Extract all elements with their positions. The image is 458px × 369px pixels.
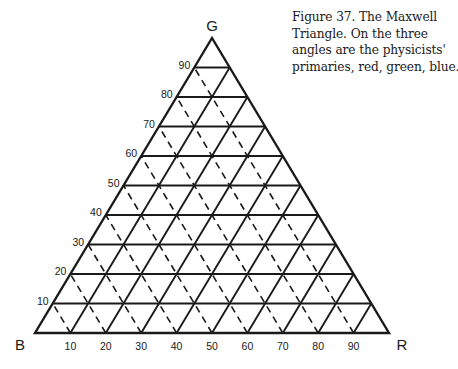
caption-line: primaries, red, green, blue. bbox=[292, 59, 458, 76]
left-axis-label: 30 bbox=[72, 236, 84, 248]
vertex-label-g: G bbox=[206, 17, 218, 34]
dashed-grid-line bbox=[159, 127, 283, 334]
solid-grid-lines bbox=[53, 68, 372, 334]
bottom-axis-label: 50 bbox=[206, 340, 218, 352]
vertex-label-b: B bbox=[15, 336, 25, 353]
caption-line: Figure 37. The Maxwell bbox=[292, 9, 458, 26]
left-axis-label: 50 bbox=[108, 177, 120, 189]
bottom-axis-label: 20 bbox=[100, 340, 112, 352]
caption-line: angles are the physicists' bbox=[292, 42, 458, 59]
bottom-axis-label: 30 bbox=[135, 340, 147, 352]
solid-grid-line bbox=[212, 186, 301, 334]
solid-grid-line bbox=[354, 304, 372, 334]
caption-line: Triangle. On the three bbox=[292, 26, 458, 43]
left-axis-label: 90 bbox=[179, 59, 191, 71]
bottom-axis-label: 60 bbox=[242, 340, 254, 352]
left-axis-label: 40 bbox=[90, 206, 102, 218]
dashed-grid-line bbox=[124, 186, 213, 334]
bottom-axis-label: 70 bbox=[277, 340, 289, 352]
vertex-label-r: R bbox=[397, 336, 408, 353]
left-axis-label: 20 bbox=[55, 265, 67, 277]
left-axis-labels: 102030405060708090 bbox=[37, 59, 190, 307]
dashed-grid-line bbox=[194, 68, 353, 334]
bottom-axis-label: 40 bbox=[171, 340, 183, 352]
bottom-axis-label: 90 bbox=[348, 340, 360, 352]
left-axis-label: 60 bbox=[126, 147, 138, 159]
left-axis-label: 10 bbox=[37, 295, 49, 307]
bottom-axis-label: 10 bbox=[65, 340, 77, 352]
solid-grid-line bbox=[70, 68, 229, 334]
figure-caption: Figure 37. The Maxwell Triangle. On the … bbox=[292, 9, 458, 75]
dashed-grid-line bbox=[53, 304, 71, 334]
left-axis-label: 70 bbox=[143, 118, 155, 130]
bottom-axis-labels: 102030405060708090 bbox=[65, 340, 360, 352]
solid-grid-line bbox=[141, 127, 265, 334]
left-axis-label: 80 bbox=[161, 88, 173, 100]
bottom-axis-label: 80 bbox=[312, 340, 324, 352]
